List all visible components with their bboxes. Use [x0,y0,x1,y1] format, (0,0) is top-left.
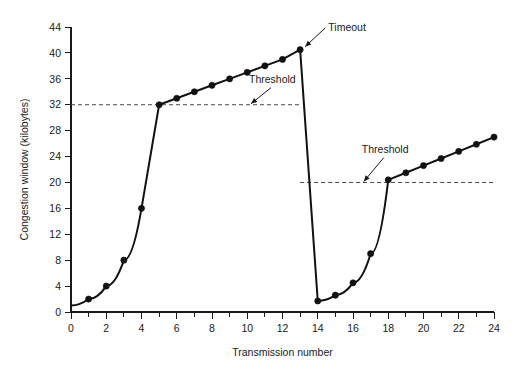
data-series-group [71,47,497,306]
data-point-marker [279,56,285,62]
x-tick-label: 24 [488,322,500,334]
annotation-label-threshold-1: Threshold [249,73,296,85]
data-point-marker [420,163,426,169]
y-tick-label: 44 [49,21,61,33]
x-tick-label: 0 [68,322,74,334]
x-tick-label: 10 [241,322,253,334]
data-point-marker [262,63,268,69]
y-axis-title: Congestion window (kilobytes) [18,99,30,241]
data-point-marker [86,296,92,302]
data-point-marker [473,141,479,147]
data-point-marker [103,283,109,289]
x-tick-label: 14 [312,322,324,334]
series-segment [142,50,318,301]
data-point-marker [156,102,162,108]
y-tick-label: 0 [55,306,61,318]
y-tick-label: 32 [49,98,61,110]
data-point-marker [227,76,233,82]
x-tick-label: 20 [418,322,430,334]
threshold-line-group [71,105,494,183]
y-tick-label: 12 [49,228,61,240]
x-axis-title: Transmission number [232,346,333,358]
x-tick-label: 12 [277,322,289,334]
data-point-marker [385,177,391,183]
data-point-marker [438,155,444,161]
x-tick-label: 6 [174,322,180,334]
data-point-marker [491,134,497,140]
annotation-label-timeout: Timeout [328,21,366,33]
annotation-arrow-threshold-2 [364,158,384,182]
y-tick-label: 28 [49,124,61,136]
y-tick-label: 8 [55,254,61,266]
data-point-marker [138,205,144,211]
x-tick-label: 16 [347,322,359,334]
y-tick-label: 16 [49,202,61,214]
data-point-marker [403,170,409,176]
data-point-marker [315,298,321,304]
x-tick-label: 4 [139,322,145,334]
y-tick-label: 36 [49,73,61,85]
y-tick-label: 40 [49,47,61,59]
x-tick-label: 18 [382,322,394,334]
data-point-marker [350,280,356,286]
y-tick-label: 20 [49,176,61,188]
data-point-marker [297,47,303,53]
annotation-arrow-timeout [305,28,325,47]
x-tick-label: 2 [103,322,109,334]
data-point-marker [209,82,215,88]
congestion-window-chart: 048121620242832364044 024681012141618202… [0,0,521,374]
y-axis-tick-group: 048121620242832364044 [49,21,71,318]
x-tick-label: 8 [209,322,215,334]
y-tick-label: 24 [49,150,61,162]
data-point-marker [456,148,462,154]
x-tick-label: 22 [453,322,465,334]
series-segment [71,208,142,305]
data-point-marker [332,292,338,298]
x-axis-tick-group: 024681012141618202224 [68,312,500,334]
data-point-marker [121,257,127,263]
annotation-group: ThresholdThresholdTimeout [249,21,409,182]
chart-canvas: 048121620242832364044 024681012141618202… [0,0,521,374]
y-tick-label: 4 [55,280,61,292]
data-point-marker [174,95,180,101]
annotation-arrow-threshold-1 [251,88,271,104]
data-point-marker [191,89,197,95]
annotation-label-threshold-2: Threshold [362,143,409,155]
data-point-marker [368,251,374,257]
